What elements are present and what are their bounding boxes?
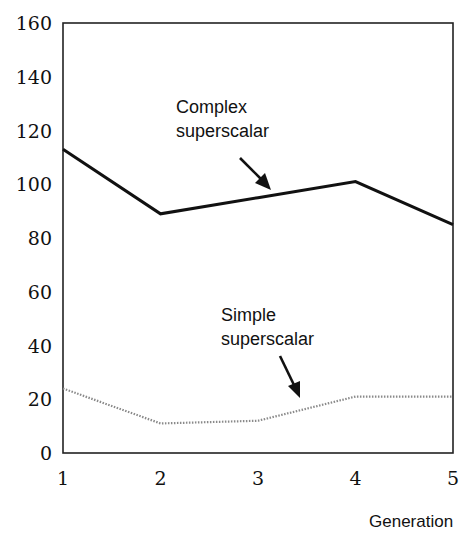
y-tick-label: 20 bbox=[28, 388, 52, 410]
y-tick-label: 100 bbox=[16, 173, 52, 195]
arrow-icon bbox=[240, 158, 271, 190]
plot-frame bbox=[63, 23, 453, 453]
y-tick-label: 120 bbox=[16, 120, 52, 142]
x-tick-label: 2 bbox=[154, 467, 166, 489]
y-tick-label: 80 bbox=[28, 227, 52, 249]
y-tick-label: 140 bbox=[16, 66, 52, 88]
series-complex-superscalar bbox=[63, 149, 453, 224]
y-axis-ticks: 020406080100120140160 bbox=[16, 12, 52, 464]
annotation-simple-line2: superscalar bbox=[221, 329, 314, 349]
line-chart: 020406080100120140160 12345 Complex supe… bbox=[0, 0, 474, 535]
y-tick-label: 0 bbox=[40, 442, 52, 464]
annotation-complex-line1: Complex bbox=[176, 97, 247, 117]
y-tick-label: 60 bbox=[28, 281, 52, 303]
arrow-icon bbox=[280, 356, 300, 398]
y-tick-label: 40 bbox=[28, 335, 52, 357]
annotation-simple-line1: Simple bbox=[221, 305, 276, 325]
x-axis-ticks: 12345 bbox=[57, 467, 459, 489]
x-tick-label: 4 bbox=[349, 467, 361, 489]
x-tick-label: 1 bbox=[57, 467, 69, 489]
y-tick-label: 160 bbox=[16, 12, 52, 34]
x-axis-label: Generation bbox=[369, 512, 453, 531]
annotation-complex-line2: superscalar bbox=[176, 121, 269, 141]
series-simple-superscalar bbox=[63, 389, 453, 424]
x-tick-label: 3 bbox=[252, 467, 264, 489]
x-tick-label: 5 bbox=[447, 467, 459, 489]
